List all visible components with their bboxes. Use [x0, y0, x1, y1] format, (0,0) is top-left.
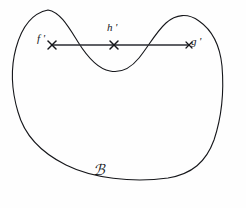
- region-label-script-a: ℬ: [93, 163, 105, 178]
- point-label-f-prime: f ': [37, 33, 45, 44]
- point-label-g-prime: g ': [191, 36, 202, 47]
- point-label-h-prime: h ': [107, 22, 118, 33]
- figure-root: f ' h ' g ' ℬ: [0, 0, 246, 208]
